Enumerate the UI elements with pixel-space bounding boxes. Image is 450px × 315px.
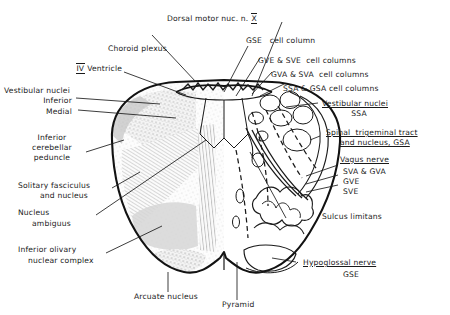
- label-vestibular-nuclei-left: Vestibular nuclei: [4, 86, 70, 95]
- label-gse-cell-column: GSE cell column: [246, 36, 315, 45]
- label-pyramid: Pyramid: [222, 300, 254, 309]
- label-solitary-l1: Solitary fasciculus: [18, 181, 90, 190]
- label-vagus-sva-gva: SVA & GVA: [343, 167, 386, 176]
- label-vagus-sve: SVE: [343, 187, 358, 196]
- label-gva-sva-cell-columns: GVA & SVA cell columns: [271, 70, 369, 79]
- leader-choroid-plexus: [152, 35, 196, 82]
- label-spinal-trigeminal-l2: and nucleus, GSA: [340, 138, 410, 147]
- solitary-nucleus-right: [249, 112, 264, 124]
- label-spinal-trigeminal-l1: Spinal trigeminal tract: [326, 128, 418, 137]
- label-vestibular-nuclei-right: Vestibular nuclei: [322, 99, 388, 108]
- label-fourth-ventricle: IV Ventricle: [76, 64, 122, 73]
- inferior-olivary-dorsal-lamella: [254, 223, 304, 234]
- label-hypoglossal-gse: GSE: [303, 270, 399, 279]
- label-inferior-olivary-l1: Inferior olivary: [18, 245, 76, 254]
- label-solitary-l2: and nucleus: [18, 191, 110, 200]
- label-vagus-gve: GVE: [343, 177, 359, 186]
- label-nucleus-ambiguus-l2: ambiguus: [32, 219, 71, 228]
- leader-sva-gva: [306, 165, 338, 176]
- leader-gve-sve-cell-columns: [236, 58, 260, 96]
- roman-numeral-ten: X: [251, 13, 257, 24]
- label-vestibular-ssa: SSA: [322, 109, 396, 118]
- label-sulcus-limitans: Sulcus limitans: [322, 212, 382, 221]
- label-inferior-vestibular: Inferior: [0, 96, 72, 105]
- label-inferior-olivary-l2: nuclear complex: [28, 256, 94, 265]
- leader-ssa-gsa-cell-columns: [260, 84, 284, 96]
- leader-spinal-trigeminal: [310, 136, 320, 140]
- label-gve-sve-cell-columns: GVE & SVE cell columns: [258, 56, 356, 65]
- roman-numeral-four: IV: [76, 63, 85, 74]
- label-inferior-cerebellar-peduncle-l3: peduncle: [16, 153, 88, 162]
- label-ssa-gsa-cell-columns: SSA & GSA cell columns: [283, 84, 379, 93]
- label-inferior-cerebellar-peduncle-l1: Inferior: [16, 133, 88, 142]
- leader-sulcus-limitans: [250, 152, 286, 218]
- inferior-olivary-nucleus-right: [253, 187, 314, 226]
- label-arcuate-nucleus: Arcuate nucleus: [134, 292, 198, 301]
- label-medial-vestibular: Medial: [0, 107, 72, 116]
- label-inferior-cerebellar-peduncle-l2: cerebellar: [16, 143, 88, 152]
- label-dorsal-motor-nucleus: Dorsal motor nuc. n. X: [167, 14, 257, 23]
- histology-left-half: [100, 60, 224, 310]
- vestibular-nucleus-medial: [260, 95, 280, 111]
- label-hypoglossal-nerve: Hypoglossal nerve: [303, 258, 376, 267]
- label-choroid-plexus: Choroid plexus: [108, 44, 167, 53]
- leader-sve: [306, 185, 338, 192]
- label-vagus-nerve: Vagus nerve: [340, 155, 389, 164]
- vestibular-nucleus-superior: [293, 106, 313, 124]
- label-nucleus-ambiguus-l1: Nucleus: [18, 208, 49, 217]
- spinal-trigeminal-nucleus: [283, 129, 311, 151]
